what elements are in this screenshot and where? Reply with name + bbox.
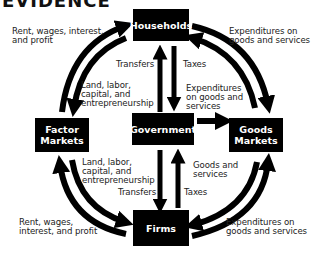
node-households: Households (133, 9, 189, 41)
label-gov-expenditures: Expenditures on goods and services (186, 84, 243, 111)
label-transfers-bottom: Transfers (118, 188, 156, 197)
label-taxes-bottom: Taxes (184, 188, 207, 197)
node-government: Government (132, 113, 194, 145)
node-factor-markets: Factor Markets (35, 118, 89, 152)
node-government-label: Government (130, 124, 196, 135)
node-goods-markets: Goods Markets (229, 118, 283, 152)
label-taxes-top: Taxes (183, 60, 206, 69)
label-goods-services: Goods and services (193, 161, 238, 179)
label-transfers-top: Transfers (116, 60, 154, 69)
node-factor-markets-label: Factor Markets (40, 124, 83, 146)
label-land-labor-lower: Land, labor, capital, and entrepreneursh… (82, 158, 155, 185)
label-land-labor-upper: Land, labor, capital, and entrepreneursh… (81, 81, 154, 108)
label-expenditures-bottom: Expenditures on goods and services (226, 218, 307, 236)
node-goods-markets-label: Goods Markets (234, 124, 277, 146)
node-firms-label: Firms (146, 223, 176, 234)
node-firms: Firms (133, 210, 189, 246)
node-households-label: Households (130, 20, 192, 31)
label-expenditures-top: Expenditures on goods and services (229, 27, 310, 45)
label-rent-wages-bottom: Rent, wages, interest, and profit (19, 218, 97, 236)
label-rent-wages-top: Rent, wages, interest, and profit (12, 27, 104, 45)
